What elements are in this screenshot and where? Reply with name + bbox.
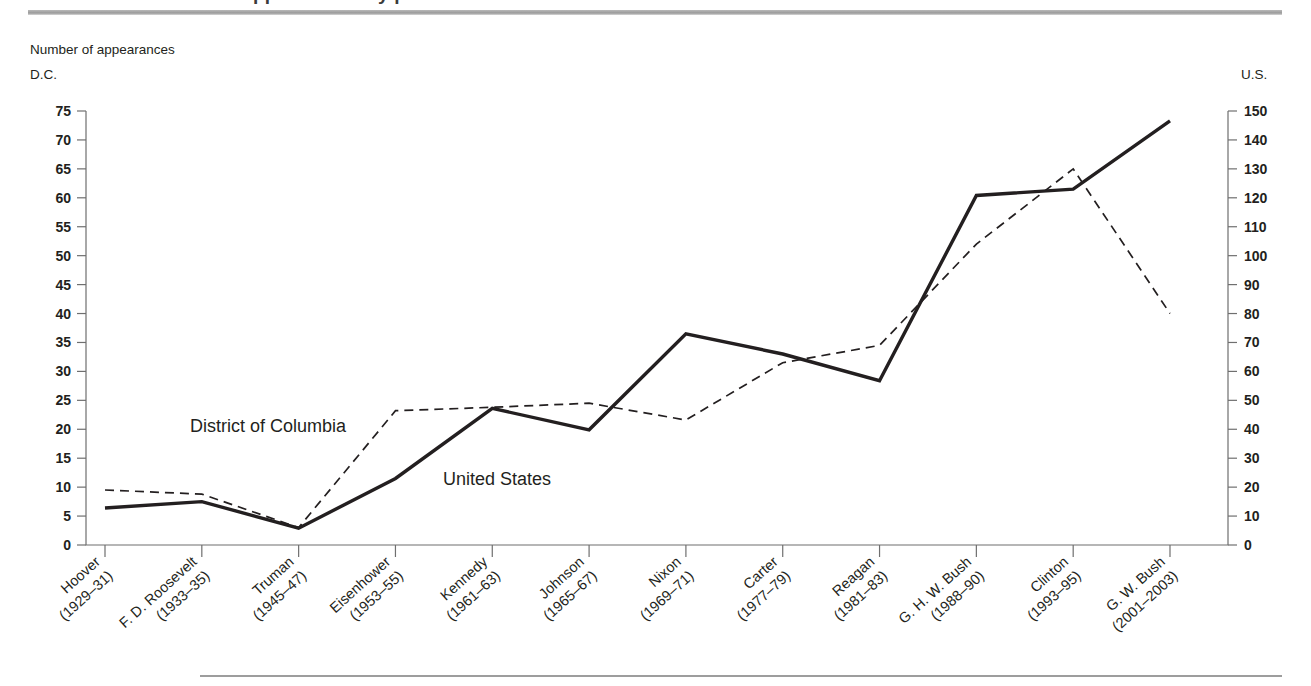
left-tick-50: 50 <box>55 248 71 264</box>
right-tick-60: 60 <box>1244 363 1260 379</box>
right-tick-40: 40 <box>1244 421 1260 437</box>
category-label: G. W. Bush(2001–2003) <box>1096 553 1181 634</box>
category-label: Truman(1945–47) <box>237 553 310 623</box>
left-tick-60: 60 <box>55 190 71 206</box>
left-tick-45: 45 <box>55 277 71 293</box>
right-tick-80: 80 <box>1244 306 1260 322</box>
right-tick-140: 140 <box>1244 132 1268 148</box>
left-tick-0: 0 <box>63 537 71 553</box>
left-tick-35: 35 <box>55 334 71 350</box>
left-tick-70: 70 <box>55 132 71 148</box>
axis-tick-labels: 0510152025303540455055606570750102030405… <box>55 103 1267 553</box>
right-tick-120: 120 <box>1244 190 1268 206</box>
category-label: F. D. Roosevelt(1933–35) <box>116 553 212 645</box>
left-tick-75: 75 <box>55 103 71 119</box>
category-label: Nixon(1969–71) <box>624 553 697 623</box>
category-label: Reagan(1981–83) <box>818 553 891 623</box>
right-tick-30: 30 <box>1244 450 1260 466</box>
right-tick-130: 130 <box>1244 161 1268 177</box>
footer-rule <box>200 675 1282 677</box>
right-tick-0: 0 <box>1244 537 1252 553</box>
line-chart: 0510152025303540455055606570750102030405… <box>0 0 1311 686</box>
series-annotations: District of ColumbiaUnited States <box>190 416 551 489</box>
category-label: Kennedy(1961–63) <box>430 553 503 624</box>
left-tick-10: 10 <box>55 479 71 495</box>
left-tick-65: 65 <box>55 161 71 177</box>
series-line-district-of-columbia <box>105 169 1170 528</box>
category-labels: Hoover(1929–31)F. D. Roosevelt(1933–35)T… <box>43 553 1181 645</box>
category-label: G. H. W. Bush(1988–90) <box>895 553 987 640</box>
left-tick-25: 25 <box>55 392 71 408</box>
right-tick-150: 150 <box>1244 103 1268 119</box>
category-label: Hoover(1929–31) <box>43 553 116 623</box>
right-tick-110: 110 <box>1244 219 1267 235</box>
left-tick-30: 30 <box>55 363 71 379</box>
right-tick-70: 70 <box>1244 334 1260 350</box>
left-tick-20: 20 <box>55 421 71 437</box>
left-tick-55: 55 <box>55 219 71 235</box>
left-tick-5: 5 <box>63 508 71 524</box>
right-tick-20: 20 <box>1244 479 1260 495</box>
category-label: Carter(1977–79) <box>721 553 794 623</box>
category-label: Eisenhower(1953–55) <box>326 553 406 630</box>
chart-series <box>105 121 1170 528</box>
left-tick-40: 40 <box>55 306 71 322</box>
series-annotation: District of Columbia <box>190 416 347 436</box>
category-label: Clinton(1993–95) <box>1011 553 1084 623</box>
series-line-united-states <box>105 121 1170 528</box>
category-label: Johnson(1965–67) <box>527 553 600 623</box>
right-tick-100: 100 <box>1244 248 1268 264</box>
series-annotation: United States <box>443 469 551 489</box>
right-tick-50: 50 <box>1244 392 1260 408</box>
right-tick-10: 10 <box>1244 508 1260 524</box>
left-tick-15: 15 <box>55 450 71 466</box>
right-tick-90: 90 <box>1244 277 1260 293</box>
